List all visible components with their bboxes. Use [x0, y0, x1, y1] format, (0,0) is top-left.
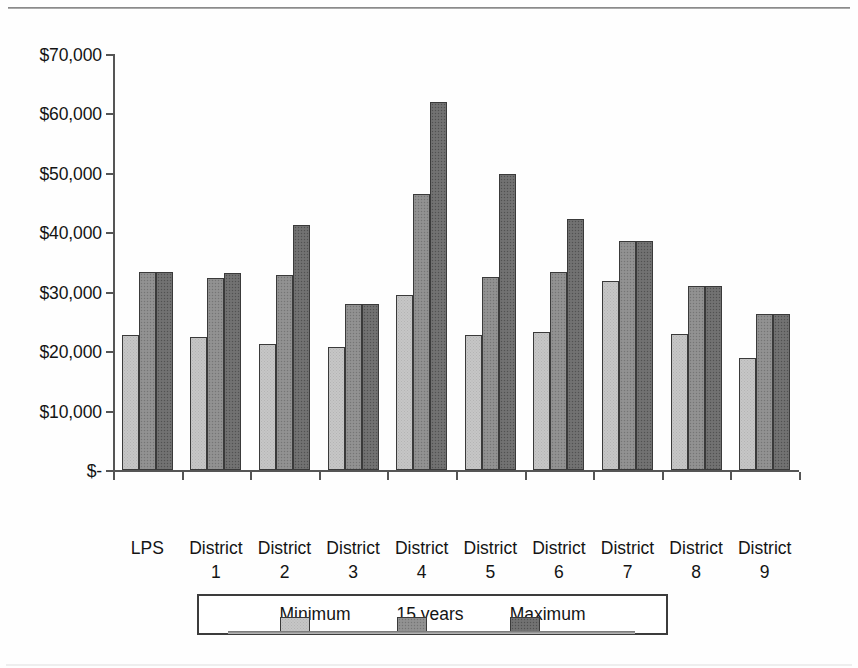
- bar-group: [602, 54, 653, 470]
- bar: [482, 277, 499, 470]
- y-axis-tick: [106, 232, 113, 234]
- x-axis-category-label-line: 4: [395, 560, 448, 584]
- legend-item: Minimum: [280, 604, 351, 625]
- x-axis-category-label-line: 3: [326, 560, 379, 584]
- y-axis-tick-label: $20,000: [39, 342, 102, 363]
- x-axis-category-label-line: District: [669, 536, 722, 560]
- x-axis-category-label-line: District: [738, 536, 791, 560]
- x-axis-category-label-line: 8: [669, 560, 722, 584]
- x-axis-category-label: District3: [326, 536, 379, 584]
- bar-group: [122, 54, 173, 470]
- x-axis-category-label: District2: [258, 536, 311, 584]
- bar: [156, 272, 173, 470]
- x-axis-category-label-line: District: [189, 536, 242, 560]
- page-rule-bottom: [228, 631, 635, 634]
- x-axis-category-label: District5: [464, 536, 517, 584]
- y-axis-tick: [106, 470, 113, 472]
- x-axis-tick: [182, 472, 184, 480]
- y-axis-tick-label: $30,000: [39, 282, 102, 303]
- bar: [602, 281, 619, 470]
- bar-group: [259, 54, 310, 470]
- y-axis-tick-label: $50,000: [39, 163, 102, 184]
- bar-group: [465, 54, 516, 470]
- x-axis-category-label: District9: [738, 536, 791, 584]
- x-axis-category-label: District7: [601, 536, 654, 584]
- bar: [224, 273, 241, 470]
- chart-legend: Minimum15 yearsMaximum: [197, 594, 668, 635]
- bar: [396, 295, 413, 470]
- bar: [550, 272, 567, 470]
- bar: [671, 334, 688, 470]
- y-axis-tick-label: $-: [87, 461, 102, 482]
- x-axis-tick: [113, 472, 115, 480]
- scanned-page: $70,000$60,000$50,000$40,000$30,000$20,0…: [0, 0, 858, 668]
- bar: [413, 194, 430, 470]
- bar-group: [190, 54, 241, 470]
- plot-area: $70,000$60,000$50,000$40,000$30,000$20,0…: [113, 54, 799, 472]
- bar-group: [328, 54, 379, 470]
- x-axis-category-label-line: District: [464, 536, 517, 560]
- x-axis-category-label-line: 2: [258, 560, 311, 584]
- bar: [739, 358, 756, 470]
- bar: [362, 304, 379, 470]
- bar: [190, 337, 207, 470]
- x-axis-category-label-line: District: [395, 536, 448, 560]
- y-axis-tick-label: $40,000: [39, 223, 102, 244]
- y-axis-tick: [106, 113, 113, 115]
- x-axis-category-label: District4: [395, 536, 448, 584]
- y-axis-tick: [106, 351, 113, 353]
- x-axis-category-label-line: District: [532, 536, 585, 560]
- page-bottom-smudge: [6, 664, 852, 666]
- bar: [688, 286, 705, 470]
- y-axis-tick: [106, 173, 113, 175]
- x-axis-tick: [250, 472, 252, 480]
- x-axis-tick: [319, 472, 321, 480]
- legend-item: 15 years: [397, 604, 464, 625]
- y-axis-tick: [106, 411, 113, 413]
- x-axis-category-label-line: 7: [601, 560, 654, 584]
- bar: [276, 275, 293, 470]
- page-rule-top: [8, 7, 850, 9]
- bar: [122, 335, 139, 470]
- y-axis-tick-label: $70,000: [39, 45, 102, 66]
- x-axis-category-label-line: 9: [738, 560, 791, 584]
- x-axis-category-label: District8: [669, 536, 722, 584]
- bar-group: [396, 54, 447, 470]
- y-axis-tick: [106, 292, 113, 294]
- bar-group: [533, 54, 584, 470]
- bar: [567, 219, 584, 470]
- x-axis-tick: [799, 472, 801, 480]
- x-axis-tick: [456, 472, 458, 480]
- legend-item: Maximum: [510, 604, 586, 625]
- x-axis-category-label-line: District: [326, 536, 379, 560]
- bar: [636, 241, 653, 470]
- x-axis-category-label-line: 5: [464, 560, 517, 584]
- bar: [756, 314, 773, 470]
- bar-group: [739, 54, 790, 470]
- x-axis-category-label-line: 6: [532, 560, 585, 584]
- x-axis-tick: [662, 472, 664, 480]
- bar: [345, 304, 362, 470]
- bar-group: [671, 54, 722, 470]
- bar: [499, 174, 516, 470]
- x-axis-category-label: District6: [532, 536, 585, 584]
- x-axis-tick: [387, 472, 389, 480]
- x-axis-category-label-line: 1: [189, 560, 242, 584]
- y-axis-tick: [106, 54, 113, 56]
- x-axis-category-label: District1: [189, 536, 242, 584]
- x-axis-category-label-line: District: [601, 536, 654, 560]
- x-axis-tick: [730, 472, 732, 480]
- bar: [139, 272, 156, 470]
- bar: [259, 344, 276, 470]
- y-axis-tick-label: $10,000: [39, 401, 102, 422]
- bar: [465, 335, 482, 470]
- bar-chart: $70,000$60,000$50,000$40,000$30,000$20,0…: [113, 54, 799, 472]
- x-axis-category-label: LPS: [131, 536, 164, 560]
- bar: [207, 278, 224, 470]
- bar: [705, 286, 722, 470]
- y-axis-tick-label: $60,000: [39, 104, 102, 125]
- y-axis-line: [113, 54, 115, 472]
- x-axis-tick: [525, 472, 527, 480]
- x-axis-category-label-line: LPS: [131, 536, 164, 560]
- bar: [293, 225, 310, 470]
